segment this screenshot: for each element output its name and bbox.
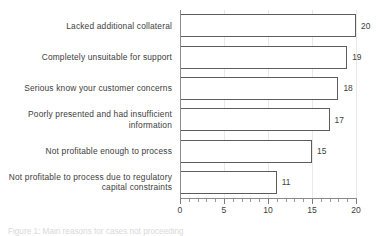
bar-value-label: 11 (282, 178, 291, 186)
x-tick-minor (206, 199, 207, 202)
x-tick-minor (321, 199, 322, 202)
bar (180, 46, 347, 69)
x-tick-minor (347, 199, 348, 202)
x-tick-label: 0 (178, 206, 183, 215)
x-tick-major (180, 199, 181, 204)
gridline (356, 10, 357, 198)
x-tick-label: 15 (307, 206, 317, 215)
bar-value-label: 18 (343, 84, 352, 92)
category-label: Not profitable enough to process (46, 146, 172, 156)
bar-value-label: 20 (361, 22, 370, 30)
x-tick-minor (330, 199, 331, 202)
gridline (268, 10, 269, 198)
x-tick-minor (338, 199, 339, 202)
category-label-row: Not profitable enough to process (0, 135, 172, 166)
category-axis-labels: Lacked additional collateral Completely … (0, 0, 176, 196)
x-tick-major (312, 199, 313, 204)
x-tick-minor (242, 199, 243, 202)
category-label: Serious know your customer concerns (24, 83, 172, 93)
y-axis-line (180, 10, 181, 199)
category-label-row: Not profitable to process due to regulat… (0, 167, 172, 198)
x-tick-major (224, 199, 225, 204)
bar-chart: Lacked additional collateral Completely … (0, 0, 381, 236)
gridline (224, 10, 225, 198)
x-tick-minor (189, 199, 190, 202)
bar-value-label: 15 (317, 147, 326, 155)
bar-value-label: 17 (335, 116, 344, 124)
bar (180, 14, 356, 37)
bar (180, 77, 338, 100)
x-tick-minor (303, 199, 304, 202)
category-label-row: Completely unsuitable for support (0, 41, 172, 72)
gridline (312, 10, 313, 198)
bar (180, 108, 330, 131)
category-label: Poorly presented and had insufficient in… (0, 109, 172, 129)
x-tick-label: 20 (351, 206, 361, 215)
x-tick-label: 10 (263, 206, 273, 215)
category-label: Lacked additional collateral (66, 21, 172, 31)
category-label: Not profitable to process due to regulat… (0, 172, 172, 192)
bar-value-label: 19 (352, 53, 361, 61)
x-tick-minor (294, 199, 295, 202)
x-tick-minor (259, 199, 260, 202)
x-tick-minor (233, 199, 234, 202)
bar (180, 171, 277, 194)
x-tick-minor (277, 199, 278, 202)
x-tick-minor (286, 199, 287, 202)
plot-area: 201918171511 (180, 10, 356, 198)
x-tick-label: 5 (222, 206, 227, 215)
category-label: Completely unsuitable for support (42, 52, 172, 62)
x-tick-major (268, 199, 269, 204)
category-label-row: Lacked additional collateral (0, 10, 172, 41)
x-tick-minor (250, 199, 251, 202)
figure-caption: Figure 1: Main reasons for cases not pro… (8, 228, 338, 236)
x-tick-major (356, 199, 357, 204)
bar (180, 140, 312, 163)
x-tick-minor (215, 199, 216, 202)
category-label-row: Poorly presented and had insufficient in… (0, 104, 172, 135)
x-tick-minor (198, 199, 199, 202)
figure-caption-text: Figure 1: Main reasons for cases not pro… (8, 228, 338, 236)
category-label-row: Serious know your customer concerns (0, 73, 172, 104)
